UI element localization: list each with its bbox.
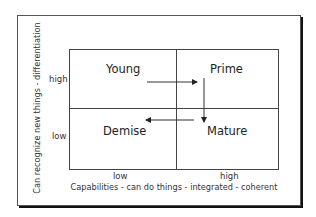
transition-arrows (0, 0, 316, 217)
